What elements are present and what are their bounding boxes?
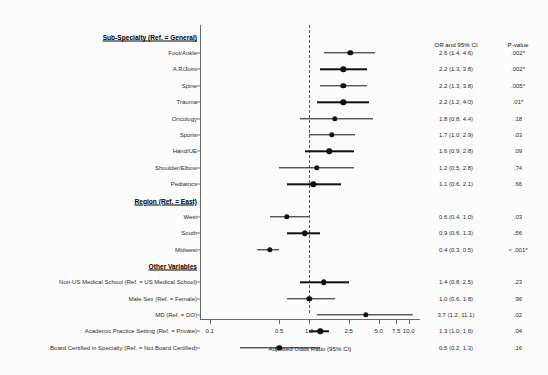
- or-value: 3.7 (1.2, 11.1): [420, 312, 492, 318]
- group-header-label: Other Variables: [149, 263, 200, 270]
- or-value: 2.6 (1.4, 4.6): [420, 50, 492, 56]
- or-value: 2.2 (1.3, 3.8): [420, 83, 492, 89]
- row-label: Pediatrics: [171, 181, 200, 188]
- or-value: 2.2 (1.2, 4.0): [420, 99, 492, 105]
- p-value: < .001*: [492, 247, 544, 253]
- x-tick-label: 7.5: [392, 328, 400, 334]
- point-estimate-marker: [284, 214, 289, 219]
- or-value: 1.3 (1.0, 1.6): [420, 328, 492, 334]
- y-tick: [197, 331, 200, 332]
- p-value: .01*: [492, 99, 544, 105]
- row-label: Oncology: [172, 115, 200, 122]
- row-label: A.R/Joint: [173, 66, 200, 73]
- x-tick: [379, 320, 380, 324]
- point-estimate-marker: [341, 99, 346, 104]
- y-tick: [197, 315, 200, 316]
- point-estimate-marker: [302, 230, 307, 235]
- or-value: 0.9 (0.6, 1.3): [420, 230, 492, 236]
- point-estimate-marker: [306, 296, 311, 301]
- p-value: .002*: [492, 66, 544, 72]
- point-estimate-marker: [341, 67, 346, 72]
- group-header-label: Sub-Specialty (Ref. = General): [103, 34, 200, 41]
- point-estimate-marker: [321, 279, 326, 284]
- y-tick: [197, 69, 200, 70]
- y-tick: [197, 216, 200, 217]
- or-column-header: OR and 95% CI: [420, 41, 492, 48]
- or-value: 1.4 (0.8, 2.5): [420, 279, 492, 285]
- p-value: .66: [492, 181, 544, 187]
- row-label: Foot/Ankle: [168, 50, 200, 57]
- or-value: 0.5 (0.2, 1.3): [420, 345, 492, 351]
- statistics-column: OR and 95% CIP-value2.6 (1.4, 4.6).002*2…: [420, 0, 548, 375]
- row-label: Academic Practice Setting (Ref. = Privat…: [85, 328, 200, 335]
- y-tick: [197, 85, 200, 86]
- y-tick: [197, 184, 200, 185]
- p-column-header: P-value: [492, 41, 544, 48]
- row-label: Male Sex (Ref. = Female): [128, 295, 200, 302]
- x-tick-label: 0.1: [205, 328, 213, 334]
- x-tick-label: 2.5: [345, 328, 353, 334]
- or-value: 1.1 (0.6, 2.1): [420, 181, 492, 187]
- row-label: Board Certified in Specialty (Ref. = Not…: [50, 344, 200, 351]
- or-value: 0.6 (0.4, 1.0): [420, 214, 492, 220]
- y-axis-line: [200, 25, 201, 320]
- p-value: .96: [492, 296, 544, 302]
- p-value: .56: [492, 230, 544, 236]
- x-tick: [210, 320, 211, 324]
- x-axis-title: Adjusted Odds Ratio (95% CI): [200, 345, 420, 352]
- or-value: 1.7 (1.0, 2.9): [420, 132, 492, 138]
- x-tick-label: 5.0: [375, 328, 383, 334]
- y-tick: [197, 135, 200, 136]
- x-tick-label: 0.5: [275, 328, 283, 334]
- or-value: 1.2 (0.5, 2.8): [420, 165, 492, 171]
- row-label: MD (Ref. = DO): [155, 312, 200, 319]
- row-label: Shoulder/Elbow: [155, 164, 200, 171]
- y-tick: [197, 249, 200, 250]
- row-label: Hand/UE: [173, 148, 200, 155]
- p-value: .002*: [492, 50, 544, 56]
- or-value: 2.2 (1.3, 3.8): [420, 66, 492, 72]
- y-tick: [197, 298, 200, 299]
- p-value: .09: [492, 148, 544, 154]
- point-estimate-marker: [348, 50, 353, 55]
- p-value: .02: [492, 312, 544, 318]
- plot-area: 0.10.51.02.55.07.510.0: [200, 25, 420, 320]
- y-tick: [197, 102, 200, 103]
- or-value: 1.8 (0.8, 4.4): [420, 116, 492, 122]
- point-estimate-marker: [327, 149, 332, 154]
- row-label-column: Sub-Specialty (Ref. = General)Foot/Ankle…: [0, 0, 200, 375]
- point-estimate-marker: [311, 181, 316, 186]
- y-tick: [197, 53, 200, 54]
- x-tick: [409, 320, 410, 324]
- p-value: .23: [492, 279, 544, 285]
- y-tick: [197, 118, 200, 119]
- or-value: 1.0 (0.6, 1.8): [420, 296, 492, 302]
- p-value: .03: [492, 214, 544, 220]
- or-value: 0.4 (0.3, 0.5): [420, 247, 492, 253]
- or-value: 1.6 (0.9, 2.8): [420, 148, 492, 154]
- point-estimate-marker: [341, 83, 346, 88]
- y-tick: [197, 282, 200, 283]
- x-tick: [396, 320, 397, 324]
- point-estimate-marker: [363, 312, 368, 317]
- y-tick: [197, 167, 200, 168]
- p-value: .16: [492, 345, 544, 351]
- point-estimate-marker: [267, 247, 272, 252]
- p-value: .74: [492, 165, 544, 171]
- group-header-label: Region (Ref. = East): [135, 197, 200, 204]
- point-estimate-marker: [314, 165, 319, 170]
- point-estimate-marker: [329, 132, 334, 137]
- p-value: .18: [492, 116, 544, 122]
- x-tick-label: 10.0: [403, 328, 415, 334]
- point-estimate-marker: [332, 116, 337, 121]
- p-value: .005*: [492, 83, 544, 89]
- reference-line: [309, 25, 310, 313]
- y-tick: [197, 233, 200, 234]
- y-tick: [197, 151, 200, 152]
- point-estimate-marker: [318, 329, 323, 334]
- x-tick: [279, 320, 280, 324]
- x-tick: [309, 320, 310, 324]
- row-label: Non-US Medical School (Ref. = US Medical…: [59, 279, 200, 286]
- forest-plot-figure: Sub-Specialty (Ref. = General)Foot/Ankle…: [0, 0, 548, 375]
- x-tick: [349, 320, 350, 324]
